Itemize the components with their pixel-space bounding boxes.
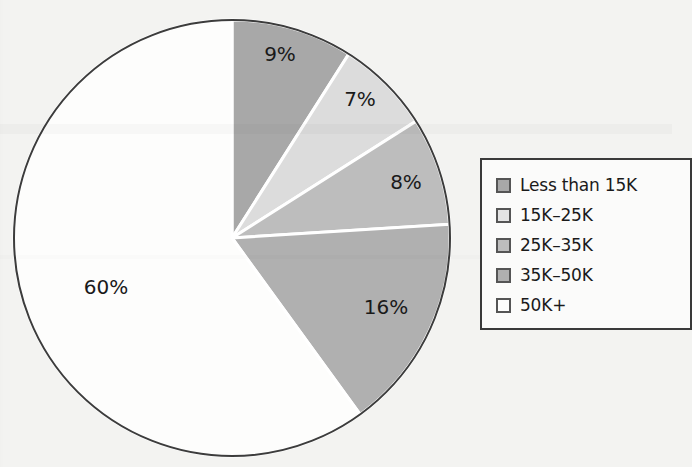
pie-slice-value-label: 16% xyxy=(364,295,408,319)
legend-swatch-icon xyxy=(496,268,511,283)
legend-item-label: 15K–25K xyxy=(520,205,593,225)
legend-item[interactable]: Less than 15K xyxy=(496,170,690,200)
legend-item[interactable]: 35K–50K xyxy=(496,260,690,290)
legend-item[interactable]: 50K+ xyxy=(496,290,690,320)
pie-slice-value-label: 8% xyxy=(390,170,422,194)
pie-slice-value-label: 7% xyxy=(344,87,376,111)
legend-swatch-icon xyxy=(496,208,511,223)
pie-slice-value-label: 9% xyxy=(264,42,296,66)
legend-item-label: 50K+ xyxy=(520,295,566,315)
legend-swatch-icon xyxy=(496,178,511,193)
legend-item-label: 35K–50K xyxy=(520,265,593,285)
legend-item[interactable]: 25K–35K xyxy=(496,230,690,260)
legend-item[interactable]: 15K–25K xyxy=(496,200,690,230)
legend-item-label: 25K–35K xyxy=(520,235,593,255)
legend-swatch-icon xyxy=(496,298,511,313)
pie-slice-value-label: 60% xyxy=(84,275,128,299)
chart-legend: Less than 15K 15K–25K 25K–35K 35K–50K 50… xyxy=(480,158,692,330)
pie-slice-group xyxy=(14,20,450,456)
legend-swatch-icon xyxy=(496,238,511,253)
legend-item-label: Less than 15K xyxy=(520,175,637,195)
